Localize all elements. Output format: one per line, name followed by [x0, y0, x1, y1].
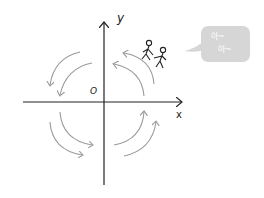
speech-line-1: 아~: [211, 32, 225, 42]
speech-line-2: 아~: [218, 45, 232, 55]
speech-bubble: 아~ 아~: [201, 26, 250, 62]
